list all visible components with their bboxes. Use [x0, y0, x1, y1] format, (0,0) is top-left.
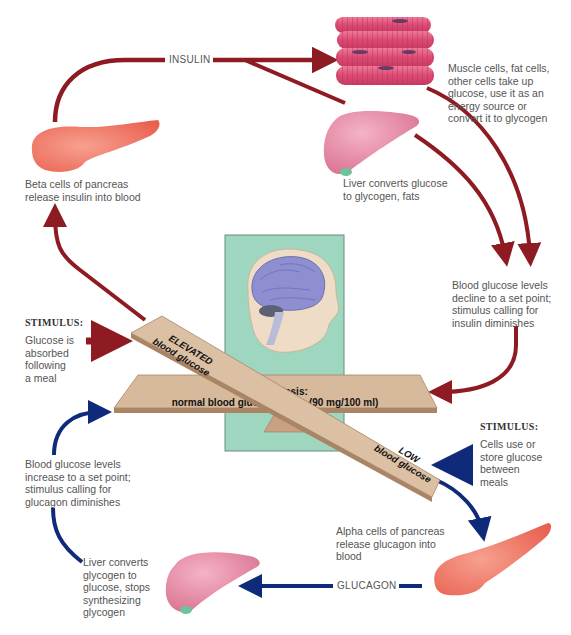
insulin-label: INSULIN	[167, 54, 213, 65]
stimulus-high-text: Glucose is absorbed following a meal	[25, 334, 74, 384]
liver-converts-glucose-text: Liver converts glucose to glycogen, fats	[343, 177, 447, 202]
muscle-cells-text: Muscle cells, fat cells, other cells tak…	[448, 62, 550, 125]
glucagon-label: GLUCAGON	[335, 580, 399, 591]
muscle-cells-icon	[335, 17, 434, 85]
liver-bottom-icon	[166, 552, 260, 614]
glucose-increase-text: Blood glucose levels increase to a set p…	[25, 458, 131, 508]
liver-top-icon	[324, 111, 419, 176]
stimulus-low-heading: STIMULUS:	[480, 421, 538, 432]
glucose-decline-text: Blood glucose levels decline to a set po…	[452, 279, 551, 329]
beta-cells-text: Beta cells of pancreas release insulin i…	[25, 178, 141, 203]
stimulus-low-text: Cells use or store glucose between meals	[480, 438, 542, 488]
liver-converts-glycogen-text: Liver converts glycogen to glucose, stop…	[83, 556, 150, 619]
pancreas-alpha-icon	[434, 523, 551, 595]
alpha-cells-text: Alpha cells of pancreas release glucagon…	[336, 525, 445, 563]
stimulus-high-heading: STIMULUS:	[25, 317, 83, 328]
pancreas-beta-icon	[32, 120, 160, 172]
